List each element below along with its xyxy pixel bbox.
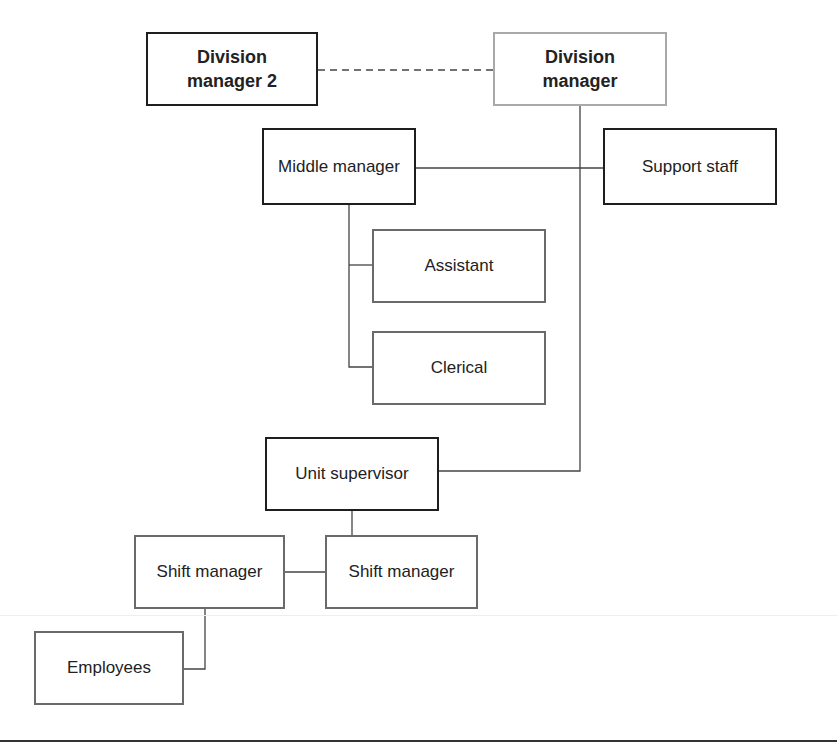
bottom-rule xyxy=(0,740,837,742)
node-shift-manager-left: Shift manager xyxy=(134,535,285,609)
node-employees: Employees xyxy=(34,631,184,705)
node-label: Clerical xyxy=(431,357,488,379)
node-label-line: Division xyxy=(187,45,277,69)
node-division-manager: Division manager xyxy=(493,32,667,106)
node-unit-supervisor: Unit supervisor xyxy=(265,437,439,511)
node-label: Employees xyxy=(67,657,151,679)
node-support-staff: Support staff xyxy=(603,128,777,205)
node-label: Support staff xyxy=(642,156,738,178)
node-division-manager-2: Division manager 2 xyxy=(146,32,318,106)
node-label: Shift manager xyxy=(349,561,455,583)
node-label-line: manager 2 xyxy=(187,69,277,93)
node-label: Unit supervisor xyxy=(295,463,408,485)
node-label: Middle manager xyxy=(278,156,400,178)
node-label: Shift manager xyxy=(157,561,263,583)
node-label-line: Division xyxy=(542,45,617,69)
node-middle-manager: Middle manager xyxy=(262,128,416,205)
node-shift-manager-right: Shift manager xyxy=(325,535,478,609)
node-clerical: Clerical xyxy=(372,331,546,405)
connector-middle-clerical xyxy=(349,205,372,367)
node-label-line: manager xyxy=(542,69,617,93)
node-assistant: Assistant xyxy=(372,229,546,303)
faint-divider xyxy=(0,615,837,616)
node-label: Assistant xyxy=(425,255,494,277)
connector-shift-employees xyxy=(184,608,205,669)
